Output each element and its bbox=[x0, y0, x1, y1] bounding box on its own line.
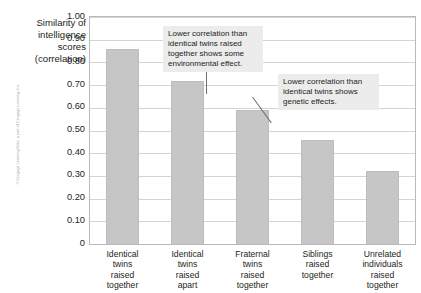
x-axis-category-label: Identicaltwinsraisedapart bbox=[153, 249, 223, 291]
annotation-leader-line-1 bbox=[206, 72, 207, 94]
y-axis-tick-label: 0 bbox=[44, 239, 85, 248]
x-axis-category-label: Fraternaltwinsraisedtogether bbox=[218, 249, 288, 291]
x-axis-category-label: Siblingsraisedtogether bbox=[283, 249, 353, 280]
y-axis-tick-label: 0.10 bbox=[44, 216, 85, 225]
bar bbox=[301, 140, 334, 244]
annotation-environmental-effect: Lower correlation than identical twins r… bbox=[163, 26, 263, 72]
gridline bbox=[90, 17, 415, 18]
bar bbox=[171, 81, 204, 244]
y-axis-tick-label: 0.60 bbox=[44, 102, 85, 111]
y-axis-tick-label: 0.40 bbox=[44, 148, 85, 157]
bar bbox=[366, 171, 399, 244]
y-axis-tick-label: 1.00 bbox=[44, 12, 85, 21]
annotation-genetic-effect: Lower correlation than identical twins s… bbox=[278, 74, 379, 110]
x-axis-category-label: Identicaltwinsraisedtogether bbox=[88, 249, 158, 291]
y-axis-tick-label: 0.20 bbox=[44, 193, 85, 202]
bar bbox=[106, 49, 139, 244]
y-axis-tick-label: 0.80 bbox=[44, 57, 85, 66]
y-axis-tick-label: 0.30 bbox=[44, 170, 85, 179]
y-axis-tick-label: 0.50 bbox=[44, 125, 85, 134]
y-axis-tick-label: 0.70 bbox=[44, 80, 85, 89]
bar bbox=[236, 110, 269, 244]
y-axis-tick-label: 0.90 bbox=[44, 34, 85, 43]
x-axis-category-label: Unrelatedindividualsraisedtogether bbox=[348, 249, 418, 291]
